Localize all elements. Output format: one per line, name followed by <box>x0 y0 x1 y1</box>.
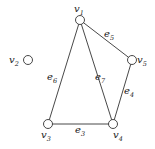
node-v2 <box>24 56 33 65</box>
v5-label: v5 <box>137 54 147 68</box>
v3-label: v3 <box>41 129 51 143</box>
e4-label: e4 <box>124 85 134 99</box>
e6-label: e6 <box>47 71 57 85</box>
node-v3 <box>44 120 53 129</box>
v2-label: v2 <box>9 54 19 68</box>
edge-e5 <box>80 20 132 60</box>
node-v1 <box>76 16 85 25</box>
e7-label: e7 <box>95 71 106 85</box>
graph-diagram: e3e4e5e6e7v1v2v3v4v5 <box>0 0 155 149</box>
node-v4 <box>109 120 118 129</box>
v1-label: v1 <box>74 3 84 17</box>
e3-label: e3 <box>75 124 85 138</box>
nodes <box>24 16 137 129</box>
node-v5 <box>128 56 137 65</box>
v4-label: v4 <box>113 129 123 143</box>
edges <box>48 20 132 124</box>
